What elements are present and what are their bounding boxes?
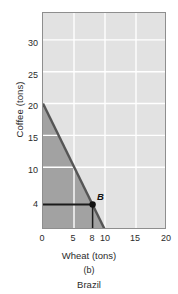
panel-letter-caption: (b) [0, 265, 178, 275]
x-axis-title: Wheat (tons) [0, 250, 178, 261]
plot-graphics [43, 13, 166, 229]
y-tick-10: 10 [16, 166, 38, 175]
x-tick-15: 15 [123, 234, 147, 243]
y-tick-30: 30 [16, 39, 38, 48]
y-tick-4: 4 [16, 200, 38, 209]
y-tick-25: 25 [16, 71, 38, 80]
ppf-chart-figure: Coffee (tons) 30 25 20 15 10 4 [0, 0, 178, 294]
x-axis-tick-labels: 0 5 8 10 15 20 [0, 234, 178, 248]
country-caption: Brazil [0, 279, 178, 290]
point-b-marker [89, 201, 95, 207]
y-tick-20: 20 [16, 102, 38, 111]
plot-area [42, 12, 166, 229]
point-b-label: B [97, 192, 104, 201]
x-tick-10: 10 [93, 234, 117, 243]
x-tick-0: 0 [30, 234, 54, 243]
x-tick-20: 20 [154, 234, 178, 243]
y-tick-15: 15 [16, 134, 38, 143]
